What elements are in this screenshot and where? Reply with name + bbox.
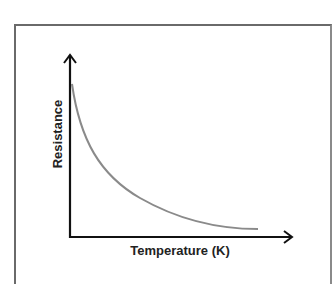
resistance-curve xyxy=(72,84,258,229)
y-axis-label: Resistance xyxy=(50,100,65,169)
x-axis-label: Temperature (K) xyxy=(130,243,229,258)
